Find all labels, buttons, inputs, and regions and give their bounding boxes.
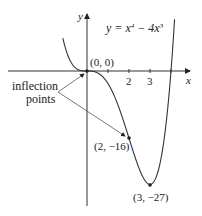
- function-curve: [63, 19, 175, 184]
- arrow-to-origin: [58, 74, 84, 92]
- point-2-label: (2, −16): [94, 141, 130, 152]
- point-3-neg27: [148, 183, 152, 187]
- point-origin: [85, 69, 89, 73]
- chart-canvas: [0, 0, 202, 216]
- x-axis-label: x: [186, 75, 191, 86]
- equation-label: y = x4 − 4x3: [106, 23, 163, 34]
- y-axis-label: y: [78, 11, 83, 22]
- inflection-label-line2: points: [26, 94, 55, 105]
- inflection-label-line1: inflection: [12, 81, 58, 92]
- origin-label: (0, 0): [90, 57, 114, 68]
- point-3-label: (3, −27): [133, 192, 169, 203]
- tick-label-2: 2: [126, 76, 132, 87]
- tick-label-3: 3: [147, 76, 153, 87]
